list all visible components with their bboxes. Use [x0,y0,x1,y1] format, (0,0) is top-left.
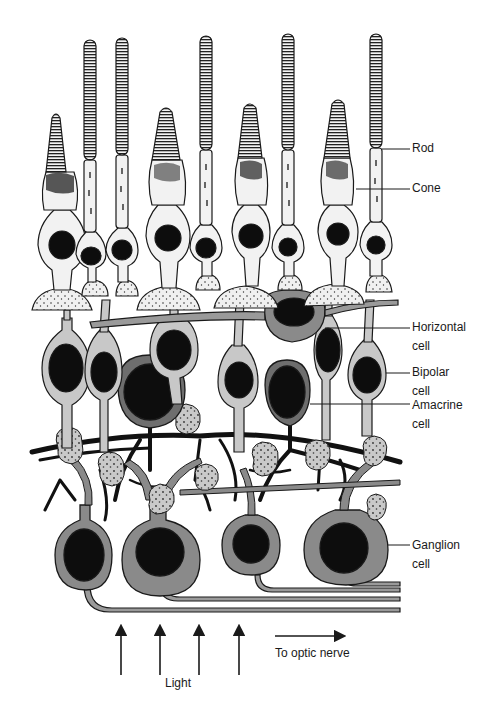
amacrine-cells [118,355,310,428]
label-light: Light [165,676,191,690]
ganglion-cells [55,495,388,596]
retina-illustration [0,0,478,712]
label-ganglion-cell: Ganglion cell [412,536,460,574]
label-horizontal-cell: Horizontal cell [412,318,466,356]
label-amacrine-cell: Amacrine cell [412,396,463,434]
label-rod: Rod [412,139,434,158]
retina-diagram: Rod Cone Horizontal cell Bipolar cell Am… [0,0,478,712]
label-to-optic-nerve: To optic nerve [275,646,350,660]
light-arrows [121,630,239,675]
label-cone: Cone [412,179,441,198]
